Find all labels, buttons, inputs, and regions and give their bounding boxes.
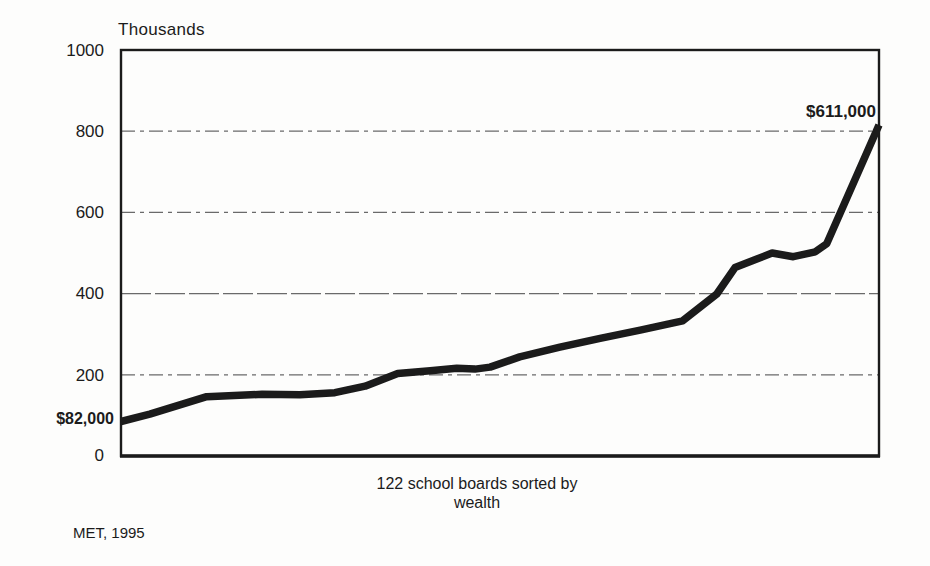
wealth-line-series [121,125,879,421]
y-tick-400: 400 [76,284,104,304]
y-axis-title: Thousands [118,20,205,40]
end-value-annotation: $611,000 [806,102,876,122]
x-axis-label-line2: wealth [287,493,667,512]
y-tick-800: 800 [76,122,104,142]
y-tick-600: 600 [76,203,104,223]
y-tick-0: 0 [95,446,104,466]
y-tick-1000: 1000 [66,41,104,61]
x-axis-label-line1: 122 school boards sorted by [287,474,667,493]
start-value-annotation: $82,000 [40,410,114,428]
scanned-line-chart-page: Thousands 1000 800 600 400 200 0 $82,000… [0,0,930,566]
x-axis-label: 122 school boards sorted by wealth [287,474,667,512]
source-note: MET, 1995 [73,524,145,541]
y-tick-200: 200 [76,366,104,386]
